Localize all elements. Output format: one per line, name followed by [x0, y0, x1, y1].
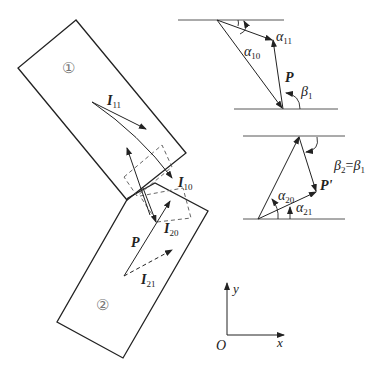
label-alpha10: α10 [244, 44, 261, 61]
block-2-label: ② [96, 297, 109, 313]
block-1 [18, 20, 186, 200]
vector-I21 [124, 250, 172, 276]
label-alpha20: α20 [278, 188, 295, 205]
upper-alpha11-arc [238, 20, 239, 26]
label-I21: I21 [140, 272, 155, 289]
lower-beta2-arc [306, 137, 318, 152]
label-P-upper: P [285, 70, 294, 85]
y-axis-label: y [231, 281, 239, 296]
vector-I10 [92, 102, 172, 178]
label-beta1: β1 [300, 84, 312, 101]
upper-beta1-arc [286, 93, 300, 109]
upper-alpha-arc [240, 21, 246, 34]
origin-label: O [216, 338, 226, 353]
label-alpha11: α11 [276, 29, 292, 46]
lower-P-prime-vector [299, 137, 316, 191]
x-axis-label: x [276, 335, 283, 350]
label-P-prime: P' [320, 178, 333, 193]
label-alpha21: α21 [296, 200, 312, 217]
label-I10: I10 [177, 175, 193, 192]
block-2 [57, 183, 208, 358]
contact-force-diagram: ① ② I11 I10 I20 P I21 α11 α10 P β1 P' α2… [0, 0, 373, 370]
lower-alpha20-vector [258, 137, 299, 219]
label-beta-relation: β2=β1 [333, 158, 365, 175]
block-1-label: ① [62, 60, 75, 76]
dashed-outline-lower [140, 188, 191, 222]
label-I20: I20 [163, 221, 179, 238]
label-I11: I11 [106, 93, 121, 110]
label-P-block2: P [131, 235, 140, 250]
upper-alpha10-vector [217, 20, 282, 108]
